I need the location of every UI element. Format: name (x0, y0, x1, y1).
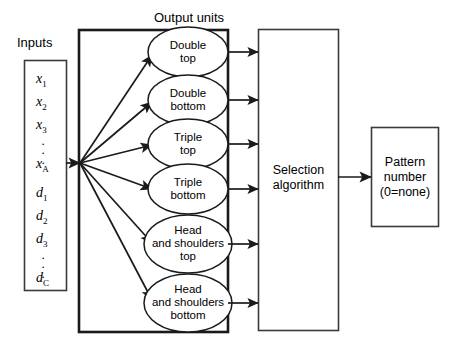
output-unit-label-head-shoulders-bottom: Head and shoulders bottom (144, 283, 232, 322)
input-item-x1: x1 (36, 72, 47, 89)
input-item-d2: d2 (36, 209, 48, 226)
input-item-dC: dC (36, 271, 49, 288)
output-unit-label-double-bottom: Double bottom (148, 87, 228, 113)
output-unit-label-triple-top: Triple top (148, 131, 228, 157)
inputs-title: Inputs (17, 36, 52, 51)
input-item-xA: xA (36, 157, 49, 174)
output-unit-label-head-shoulders-top: Head and shoulders top (144, 224, 232, 263)
output-unit-label-triple-bottom: Triple bottom (148, 176, 228, 202)
input-item-d1: d1 (36, 186, 48, 203)
output-unit-label-double-top: Double top (148, 39, 228, 65)
selection-algorithm-label: Selection algorithm (259, 163, 338, 193)
output-units-title: Output units (154, 11, 224, 26)
pattern-number-label: Pattern number (0=none) (372, 155, 438, 200)
diagram-canvas: Inputs Output units x1 x2 x3 ... xA d1 d… (0, 0, 455, 354)
input-item-x2: x2 (36, 95, 47, 112)
